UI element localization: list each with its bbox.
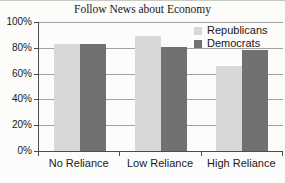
y-axis-tick-mark: [34, 48, 38, 49]
y-axis-tick-mark: [34, 22, 38, 23]
bar-democrats-high-reliance: [242, 50, 268, 151]
x-axis-category-label: High Reliance: [201, 157, 282, 169]
bar-republicans-high-reliance: [216, 66, 242, 151]
x-axis-tick-mark: [119, 152, 120, 156]
y-axis-tick-mark: [34, 125, 38, 126]
legend-label: Democrats: [207, 38, 260, 49]
chart-title: Follow News about Economy: [0, 3, 285, 15]
y-axis-tick-label: 0%: [2, 146, 32, 156]
bar-democrats-no-reliance: [80, 44, 106, 151]
y-axis-tick-label: 80%: [2, 43, 32, 53]
y-axis-tick-label: 40%: [2, 94, 32, 104]
gridline-100: [39, 22, 283, 23]
y-axis-tick-mark: [34, 74, 38, 75]
y-axis-tick-label: 60%: [2, 69, 32, 79]
bar-democrats-low-reliance: [161, 47, 187, 151]
legend-swatch-icon: [194, 27, 202, 35]
bar-republicans-low-reliance: [135, 36, 161, 151]
legend-item-republicans: Republicans: [194, 24, 268, 37]
y-axis-tick-label: 100%: [2, 17, 32, 27]
x-axis-category-label: No Reliance: [38, 157, 119, 169]
x-axis-tick-mark: [38, 152, 39, 156]
y-axis-tick-label: 20%: [2, 120, 32, 130]
legend: RepublicansDemocrats: [194, 24, 268, 50]
x-axis-tick-mark: [282, 152, 283, 156]
bar-republicans-no-reliance: [54, 44, 80, 151]
legend-label: Republicans: [207, 25, 268, 36]
x-axis-category-label: Low Reliance: [119, 157, 200, 169]
economy-news-bar-chart: Follow News about Economy 0%20%40%60%80%…: [0, 0, 285, 183]
legend-item-democrats: Democrats: [194, 37, 268, 50]
y-axis-tick-mark: [34, 99, 38, 100]
x-axis-tick-mark: [201, 152, 202, 156]
legend-swatch-icon: [194, 40, 202, 48]
